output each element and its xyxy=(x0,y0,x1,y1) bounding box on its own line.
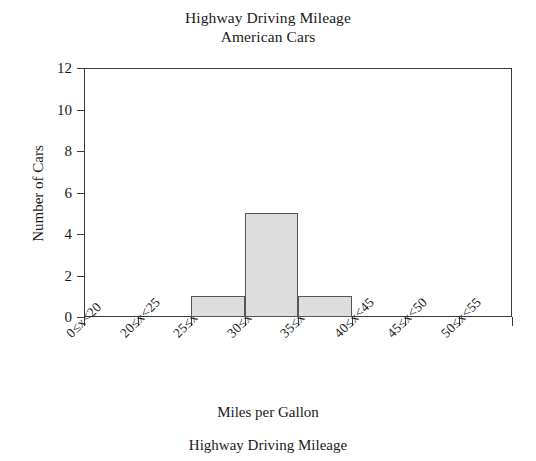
y-tick-label-4: 4 xyxy=(12,227,72,242)
y-tick-mark-2 xyxy=(77,276,85,277)
x-tick-mark-8 xyxy=(512,317,513,326)
chart-title: Highway Driving Mileage American Cars xyxy=(0,8,536,46)
y-tick-label-10: 10 xyxy=(12,103,72,118)
bar-30-35 xyxy=(245,213,299,317)
y-tick-mark-10 xyxy=(77,110,85,111)
plot-area xyxy=(84,68,512,317)
y-tick-mark-6 xyxy=(77,193,85,194)
y-tick-mark-8 xyxy=(77,151,85,152)
y-tick-label-2: 2 xyxy=(12,269,72,284)
x-axis-title: Miles per Gallon xyxy=(0,404,536,421)
y-tick-label-6: 6 xyxy=(12,186,72,201)
y-tick-mark-12 xyxy=(77,68,85,69)
y-tick-label-0: 0 xyxy=(12,310,72,325)
y-tick-label-8: 8 xyxy=(12,144,72,159)
histogram-figure: Highway Driving Mileage American Cars Nu… xyxy=(0,0,536,461)
chart-title-line-1: Highway Driving Mileage xyxy=(0,8,536,27)
figure-caption: Highway Driving Mileage xyxy=(0,437,536,454)
bar-35-40 xyxy=(298,296,352,317)
y-tick-label-12: 12 xyxy=(12,61,72,76)
chart-title-line-2: American Cars xyxy=(0,27,536,46)
bar-25-30 xyxy=(191,296,245,317)
y-tick-mark-4 xyxy=(77,234,85,235)
